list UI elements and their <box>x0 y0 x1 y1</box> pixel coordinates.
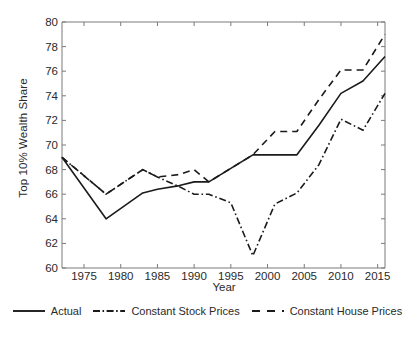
chart-legend: Actual Constant Stock Prices Constant Ho… <box>0 305 414 317</box>
data-series-group <box>62 34 385 255</box>
plot-canvas <box>0 0 414 341</box>
legend-sample-solid <box>12 306 46 316</box>
series-actual <box>62 56 385 218</box>
chart-figure: Top 10% Wealth Share 80 78 76 74 72 70 6… <box>0 0 414 341</box>
legend-label: Constant House Prices <box>290 305 403 317</box>
legend-item-constant-house-prices[interactable]: Constant House Prices <box>251 305 403 317</box>
legend-label: Constant Stock Prices <box>131 305 239 317</box>
series-constant-stock-prices <box>62 93 385 255</box>
legend-sample-dashdot <box>92 306 126 316</box>
legend-label: Actual <box>51 305 82 317</box>
series-constant-house-prices <box>62 34 385 194</box>
legend-sample-dashed <box>251 306 285 316</box>
legend-item-actual[interactable]: Actual <box>12 305 82 317</box>
legend-item-constant-stock-prices[interactable]: Constant Stock Prices <box>92 305 239 317</box>
axes-frame <box>62 22 385 268</box>
